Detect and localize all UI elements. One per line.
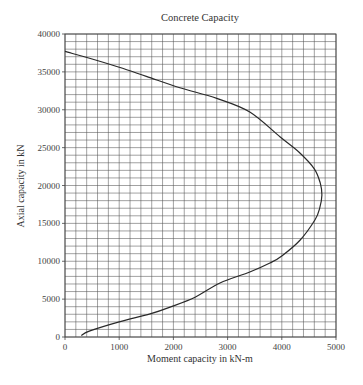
x-tick-label: 4000 <box>273 342 292 352</box>
y-tick-label: 35000 <box>38 67 61 77</box>
y-tick-label: 5000 <box>42 294 61 304</box>
x-tick-label: 2000 <box>164 342 183 352</box>
y-tick-label: 30000 <box>38 105 61 115</box>
chart: Concrete Capacity 010002000300040005000 … <box>0 0 363 385</box>
grid-lines <box>65 34 336 337</box>
y-tick-label: 10000 <box>38 256 61 266</box>
x-axis-ticks: 010002000300040005000 <box>63 337 346 352</box>
interaction-curve <box>65 51 322 335</box>
x-axis-label: Moment capacity in kN-m <box>147 353 253 364</box>
y-tick-label: 0 <box>56 332 61 342</box>
y-tick-label: 20000 <box>38 181 61 191</box>
y-tick-label: 15000 <box>38 218 61 228</box>
x-tick-label: 5000 <box>327 342 346 352</box>
y-axis-ticks: 0500010000150002000025000300003500040000 <box>38 29 66 342</box>
y-tick-label: 25000 <box>38 143 61 153</box>
y-axis-label: Axial capacity in kN <box>15 144 26 227</box>
x-tick-label: 0 <box>63 342 68 352</box>
y-tick-label: 40000 <box>38 29 61 39</box>
chart-title: Concrete Capacity <box>161 12 240 23</box>
x-tick-label: 1000 <box>110 342 129 352</box>
x-tick-label: 3000 <box>219 342 238 352</box>
